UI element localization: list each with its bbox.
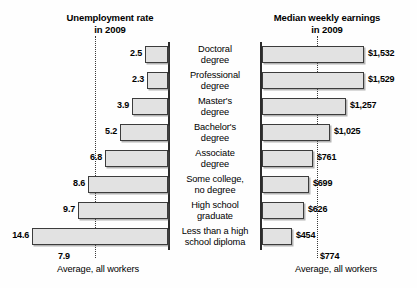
- bar-row: $1,257: [260, 94, 412, 120]
- category-label: Some college, no degree: [168, 172, 262, 198]
- earnings-value-label: $1,529: [368, 74, 394, 85]
- bar-row: $699: [260, 172, 412, 198]
- bar-row: 2.3: [10, 68, 170, 94]
- earnings-bar[interactable]: [262, 228, 292, 245]
- earnings-bar[interactable]: [262, 46, 364, 63]
- unemployment-value-label: 8.6: [73, 178, 85, 189]
- category-label: Professional degree: [168, 68, 262, 94]
- left-average-caption: Average, all workers: [18, 264, 178, 274]
- earnings-value-label: $1,025: [334, 126, 360, 137]
- unemployment-value-label: 2.5: [130, 48, 142, 59]
- bar-row: $1,025: [260, 120, 412, 146]
- unemployment-value-label: 9.7: [63, 204, 75, 215]
- right-average-value: $774: [320, 251, 339, 261]
- category-label: Doctoral degree: [168, 42, 262, 68]
- right-panel-title: Median weekly earnings in 2009: [244, 12, 410, 35]
- bar-row: 5.2: [10, 120, 170, 146]
- bar-row: 9.7: [10, 198, 170, 224]
- median-weekly-earnings-panel: $1,532 $1,529 $1,257 $1,025 $761 $699 $6…: [260, 42, 412, 250]
- earnings-bar[interactable]: [262, 98, 346, 115]
- earnings-value-label: $1,532: [368, 48, 394, 59]
- earnings-value-label: $699: [313, 178, 332, 189]
- unemployment-bar[interactable]: [147, 72, 168, 89]
- unemployment-value-label: 2.3: [132, 74, 144, 85]
- unemployment-bar[interactable]: [132, 98, 168, 115]
- earnings-value-label: $1,257: [350, 100, 376, 111]
- unemployment-value-label: 5.2: [105, 126, 117, 137]
- bar-row: $1,532: [260, 42, 412, 68]
- unemployment-bar[interactable]: [78, 202, 168, 219]
- bar-row: $761: [260, 146, 412, 172]
- category-label-column: Doctoral degree Professional degree Mast…: [172, 42, 258, 250]
- bar-row: $454: [260, 224, 412, 250]
- unemployment-value-label: 3.9: [117, 100, 129, 111]
- unemployment-value-label: 14.6: [12, 230, 29, 241]
- unemployment-value-label: 6.8: [90, 152, 102, 163]
- category-label: Less than a high school diploma: [168, 224, 262, 250]
- earnings-bar[interactable]: [262, 202, 304, 219]
- category-label: High school graduate: [168, 198, 262, 224]
- earnings-bar[interactable]: [262, 124, 330, 141]
- earnings-bar[interactable]: [262, 150, 313, 167]
- earnings-value-label: $454: [296, 230, 315, 241]
- category-label: Associate degree: [168, 146, 262, 172]
- unemployment-bar[interactable]: [120, 124, 168, 141]
- bar-row: 8.6: [10, 172, 170, 198]
- category-label: Bachelor's degree: [168, 120, 262, 146]
- earnings-value-label: $626: [308, 204, 327, 215]
- bar-row: 6.8: [10, 146, 170, 172]
- education-pays-chart: Unemployment rate in 2009 Median weekly …: [0, 0, 417, 288]
- left-average-value: 7.9: [58, 251, 70, 261]
- earnings-bar[interactable]: [262, 176, 309, 193]
- bar-row: 3.9: [10, 94, 170, 120]
- unemployment-bar[interactable]: [32, 228, 168, 245]
- unemployment-rate-panel: 2.5 2.3 3.9 5.2 6.8 8.6 9.7 14.6: [10, 42, 170, 250]
- earnings-bar[interactable]: [262, 72, 364, 89]
- left-panel-title: Unemployment rate in 2009: [36, 12, 184, 35]
- bar-row: 2.5: [10, 42, 170, 68]
- right-average-caption: Average, all workers: [256, 264, 416, 274]
- bar-row: 14.6: [10, 224, 170, 250]
- bar-row: $1,529: [260, 68, 412, 94]
- bar-row: $626: [260, 198, 412, 224]
- unemployment-bar[interactable]: [105, 150, 168, 167]
- unemployment-bar[interactable]: [88, 176, 168, 193]
- unemployment-bar[interactable]: [145, 46, 168, 63]
- earnings-value-label: $761: [317, 152, 336, 163]
- category-label: Master's degree: [168, 94, 262, 120]
